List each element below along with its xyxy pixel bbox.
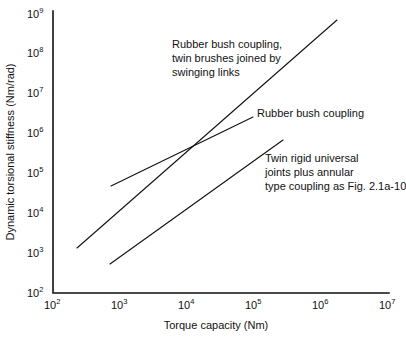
- y-tick-label: 105: [27, 165, 43, 179]
- x-tick-label: 107: [379, 297, 395, 311]
- y-tick-label: 107: [27, 85, 43, 99]
- annotation-line: twin brushes joined by: [172, 52, 281, 64]
- annotation-line: joints plus annular: [264, 166, 354, 178]
- annotation-line: swinging links: [172, 66, 240, 78]
- y-tick-label: 106: [27, 125, 43, 139]
- x-tick-label: 102: [44, 297, 60, 311]
- x-tick-label: 103: [111, 297, 127, 311]
- x-tick-label: 104: [178, 297, 194, 311]
- x-axis-title: Torque capacity (Nm): [164, 319, 269, 331]
- y-tick-label: 104: [27, 205, 43, 219]
- y-tick-labels: 102 103 104 105 106 107 108 109: [27, 6, 43, 299]
- annotation-twin-rigid-universal-joints: Twin rigid universal joints plus annular…: [264, 152, 406, 192]
- series-line-rubber-bush-coupling: [111, 117, 253, 186]
- x-tick-label: 106: [312, 297, 328, 311]
- y-tick-label: 103: [27, 245, 43, 259]
- annotation-rubber-bush-twin-brushes: Rubber bush coupling, twin brushes joine…: [172, 38, 282, 78]
- y-tick-label: 109: [27, 6, 43, 20]
- x-tick-labels: 102 103 104 105 106 107: [44, 297, 395, 311]
- y-tick-label: 108: [27, 45, 43, 59]
- annotation-line: Twin rigid universal: [265, 152, 359, 164]
- chart-figure: 102 103 104 105 106 107 108 109: [0, 0, 406, 344]
- annotation-rubber-bush-coupling: Rubber bush coupling: [257, 107, 364, 119]
- series-line-twin-rigid-universal-joints: [110, 140, 283, 264]
- annotation-line: Rubber bush coupling,: [172, 38, 282, 50]
- annotation-line: Rubber bush coupling: [257, 107, 364, 119]
- y-tick-label: 102: [27, 285, 43, 299]
- annotation-line: type coupling as Fig. 2.1a-10: [265, 180, 406, 192]
- y-axis-title: Dynamic torsional stiffness (Nm/rad): [4, 63, 16, 240]
- log-log-plot: 102 103 104 105 106 107 108 109: [0, 0, 406, 344]
- x-tick-label: 105: [245, 297, 261, 311]
